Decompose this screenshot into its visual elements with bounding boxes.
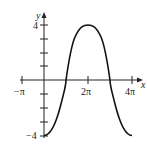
x-axis — [20, 76, 143, 84]
x-axis-label: x — [140, 79, 146, 90]
x-tick-label-neg-pi: −π — [14, 86, 25, 97]
y-tick-label-neg-4: −4 — [26, 130, 37, 141]
y-tick-label-4: 4 — [33, 20, 38, 31]
y-axis-arrow-icon — [42, 12, 47, 18]
function-graph: y x 4 −4 −π 2π 4π — [0, 0, 147, 146]
x-tick-label-4pi: 4π — [125, 86, 135, 97]
y-axis — [40, 12, 48, 138]
x-tick-label-2pi: 2π — [81, 86, 91, 97]
